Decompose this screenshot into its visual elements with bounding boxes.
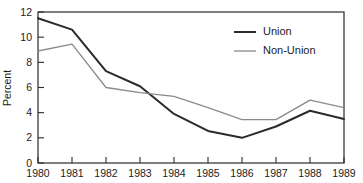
chart-container: 024681012 198019811982198319841985198619… xyxy=(0,0,363,183)
x-tick-label: 1989 xyxy=(332,167,356,179)
y-axis-ticks: 024681012 xyxy=(20,6,44,169)
y-tick-label: 2 xyxy=(26,131,32,143)
y-axis-title: Percent xyxy=(1,70,13,106)
line-chart: 024681012 198019811982198319841985198619… xyxy=(0,0,363,183)
y-tick-label: 8 xyxy=(26,56,32,68)
y-tick-label: 6 xyxy=(26,81,32,93)
plot-frame xyxy=(38,12,344,163)
x-tick-label: 1987 xyxy=(264,167,288,179)
x-tick-label: 1981 xyxy=(60,167,84,179)
x-tick-label: 1980 xyxy=(26,167,50,179)
x-axis-ticks: 1980198119821983198419851986198719881989 xyxy=(26,157,356,179)
legend-label-union: Union xyxy=(263,25,292,37)
data-series-layer xyxy=(38,18,344,138)
x-tick-label: 1986 xyxy=(230,167,254,179)
y-tick-label: 10 xyxy=(20,31,32,43)
x-tick-label: 1983 xyxy=(128,167,152,179)
x-tick-label: 1982 xyxy=(94,167,118,179)
series-line-union xyxy=(38,18,344,138)
y-tick-label: 12 xyxy=(20,6,32,18)
legend-label-non-union: Non-Union xyxy=(263,44,316,56)
chart-legend: UnionNon-Union xyxy=(234,25,316,56)
x-tick-label: 1988 xyxy=(298,167,322,179)
x-tick-label: 1984 xyxy=(162,167,186,179)
y-tick-label: 4 xyxy=(26,106,32,118)
x-tick-label: 1985 xyxy=(196,167,220,179)
